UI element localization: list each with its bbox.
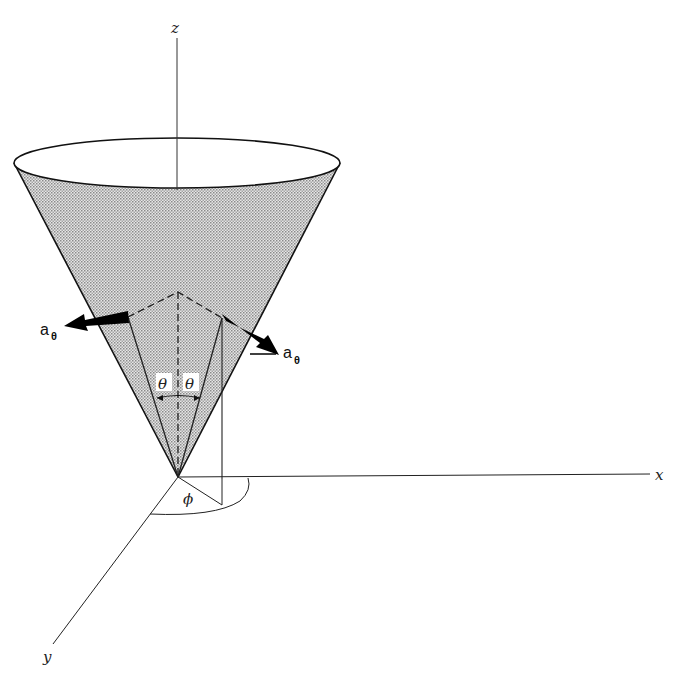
a-theta-left-subscript: θ	[51, 330, 57, 342]
z-axis-label: z	[170, 19, 179, 37]
x-axis-label: x	[655, 466, 664, 484]
cone-surface	[14, 163, 340, 477]
theta-right-label: θ	[185, 375, 194, 393]
theta-left-label: θ	[158, 375, 167, 393]
cone-diagram: z θ θ a θ a θ x y ϕ	[0, 0, 678, 675]
a-theta-left-label: a	[40, 321, 49, 338]
phi-arc	[150, 478, 249, 514]
phi-label: ϕ	[183, 490, 193, 508]
a-theta-right-subscript: θ	[294, 354, 300, 366]
x-axis	[178, 474, 650, 477]
y-axis-label: y	[42, 648, 52, 666]
a-theta-right-label: a	[283, 344, 292, 361]
y-axis	[53, 477, 178, 644]
phi-angle-marker: ϕ	[150, 477, 249, 514]
